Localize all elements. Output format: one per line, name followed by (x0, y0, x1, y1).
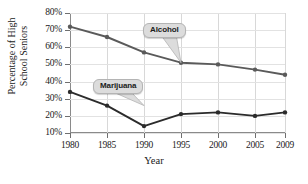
data-point (216, 110, 220, 114)
chart-figure: 10%20%30%40%50%60%70%80% 198019851990199… (0, 0, 308, 184)
data-point (68, 90, 72, 94)
alcohol-series-label: Alcohol (143, 23, 186, 38)
data-point (253, 114, 257, 118)
data-point (216, 62, 220, 66)
data-point (105, 35, 109, 39)
series-line-marijuana (70, 92, 285, 126)
marijuana-callout-tail (116, 93, 145, 106)
data-point (142, 50, 146, 54)
data-point (283, 73, 287, 77)
data-point (253, 67, 257, 71)
data-point (142, 124, 146, 128)
data-point (105, 103, 109, 107)
series-markers-marijuana (68, 90, 287, 129)
data-point (179, 112, 183, 116)
marijuana-series-label: Marijuana (93, 79, 143, 94)
data-point (283, 110, 287, 114)
data-point (68, 25, 72, 29)
